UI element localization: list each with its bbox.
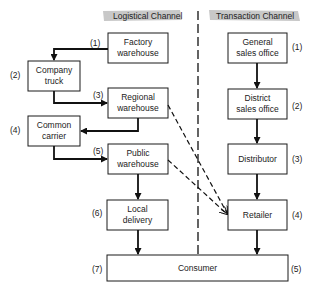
svg-text:Public: Public bbox=[126, 148, 150, 158]
box-common-carrier: Common carrier bbox=[28, 116, 80, 146]
box-company-truck: Company truck bbox=[28, 61, 80, 91]
box-consumer: Consumer bbox=[107, 255, 288, 281]
header-logistical-channel: Logistical Channel bbox=[103, 10, 183, 21]
num-consumer-transaction: (5) bbox=[291, 264, 302, 274]
num-regional-warehouse: (3) bbox=[93, 90, 104, 100]
box-factory-warehouse: Factory warehouse bbox=[108, 33, 168, 63]
svg-text:Consumer: Consumer bbox=[178, 263, 217, 273]
arrow-regional-to-carrier bbox=[81, 118, 138, 131]
box-distributor: Distributor bbox=[228, 144, 287, 174]
svg-text:Company: Company bbox=[36, 65, 73, 75]
num-district-sales-office: (2) bbox=[292, 101, 303, 111]
svg-text:Regional: Regional bbox=[121, 92, 155, 102]
svg-text:delivery: delivery bbox=[123, 215, 153, 225]
svg-text:Distributor: Distributor bbox=[238, 154, 277, 164]
num-local-delivery: (6) bbox=[92, 208, 103, 218]
svg-text:Factory: Factory bbox=[124, 37, 153, 47]
num-public-warehouse: (5) bbox=[93, 146, 104, 156]
arrow-factory-to-truck bbox=[54, 49, 108, 60]
svg-text:warehouse: warehouse bbox=[116, 159, 159, 169]
box-retailer: Retailer bbox=[228, 200, 287, 230]
box-general-sales-office: General sales office bbox=[228, 33, 287, 63]
svg-text:Common: Common bbox=[37, 120, 72, 130]
svg-text:sales office: sales office bbox=[236, 104, 279, 114]
distribution-channel-diagram: Logistical Channel Transaction Channel F… bbox=[0, 0, 319, 296]
header-transaction-label: Transaction Channel bbox=[216, 11, 294, 21]
svg-text:warehouse: warehouse bbox=[116, 48, 159, 58]
num-common-carrier: (4) bbox=[10, 125, 21, 135]
svg-text:District: District bbox=[245, 93, 272, 103]
svg-text:carrier: carrier bbox=[42, 131, 66, 141]
box-regional-warehouse: Regional warehouse bbox=[108, 88, 168, 118]
svg-text:warehouse: warehouse bbox=[116, 103, 159, 113]
num-retailer: (4) bbox=[292, 210, 303, 220]
box-local-delivery: Local delivery bbox=[107, 200, 168, 230]
svg-text:Retailer: Retailer bbox=[243, 210, 272, 220]
svg-text:truck: truck bbox=[45, 76, 64, 86]
num-factory-warehouse: (1) bbox=[90, 38, 101, 48]
num-consumer-logistical: (7) bbox=[92, 264, 103, 274]
svg-text:General: General bbox=[242, 37, 272, 47]
header-transaction-channel: Transaction Channel bbox=[209, 10, 300, 21]
num-company-truck: (2) bbox=[10, 70, 21, 80]
box-district-sales-office: District sales office bbox=[228, 89, 287, 119]
header-logistical-label: Logistical Channel bbox=[113, 11, 183, 21]
num-general-sales-office: (1) bbox=[292, 42, 303, 52]
num-distributor: (3) bbox=[292, 154, 303, 164]
svg-text:sales office: sales office bbox=[236, 48, 279, 58]
box-public-warehouse: Public warehouse bbox=[108, 144, 168, 174]
svg-text:Local: Local bbox=[127, 204, 147, 214]
